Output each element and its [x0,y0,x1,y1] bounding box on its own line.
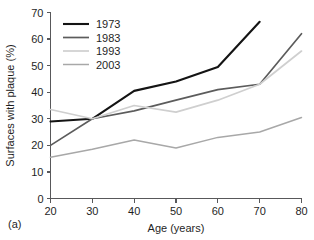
line-chart: 010203040506070 20304050607080 197319831… [0,0,314,240]
x-tick-label-70: 70 [254,205,266,217]
x-tick-label-50: 50 [170,205,182,217]
series-line-2003 [51,117,302,157]
x-tick-label-30: 30 [86,205,98,217]
chart-legend: 1973198319932003 [63,18,120,71]
legend-label-1993: 1993 [96,45,120,57]
series-line-1993 [51,51,302,119]
x-axis-ticks [51,199,302,203]
legend-label-2003: 2003 [96,59,120,71]
y-tick-label-30: 30 [31,113,43,125]
y-tick-label-40: 40 [31,86,43,98]
x-tick-label-40: 40 [128,205,140,217]
x-tick-label-20: 20 [44,205,56,217]
y-axis-title: Surfaces with plaque (%) [4,44,16,166]
legend-label-1983: 1983 [96,32,120,44]
y-tick-label-50: 50 [31,60,43,72]
x-tick-label-80: 80 [295,205,307,217]
data-series-group [51,22,302,158]
x-axis-title: Age (years) [148,222,205,234]
y-tick-label-10: 10 [31,166,43,178]
panel-label: (a) [8,218,21,230]
x-axis-tick-labels: 20304050607080 [44,205,307,217]
figure-panel-a: 010203040506070 20304050607080 197319831… [0,0,314,240]
y-tick-label-20: 20 [31,139,43,151]
y-tick-label-0: 0 [37,193,43,205]
y-tick-label-60: 60 [31,33,43,45]
y-tick-label-70: 70 [31,7,43,19]
y-axis-tick-labels: 010203040506070 [31,7,43,205]
x-tick-label-60: 60 [212,205,224,217]
legend-label-1973: 1973 [96,18,120,30]
